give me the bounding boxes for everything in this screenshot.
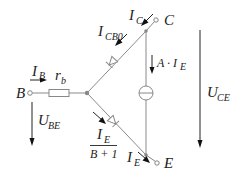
emitter-terminal (155, 161, 159, 165)
source-current-arrow (150, 55, 155, 74)
uce-label-sub: CE (217, 92, 230, 103)
base-terminal (28, 91, 33, 96)
resistor-rb (49, 90, 69, 97)
uce-arrow (198, 30, 203, 148)
collector-label: C (164, 12, 175, 28)
base-label: B (16, 85, 25, 101)
ie-label-main: I (126, 149, 133, 165)
fraction-numerator-main: I (96, 126, 103, 142)
ie-fraction-arrow (93, 112, 106, 124)
ube-label-sub: BE (48, 120, 60, 131)
ib-label-main: I (31, 63, 38, 79)
fraction-numerator-sub: E (103, 134, 110, 145)
rb-label-sub: b (61, 75, 66, 86)
circuit-diagram: B C E I B r b I C I CB0 A · I E U CE U B… (0, 0, 245, 175)
icb0-label-sub: CB0 (105, 31, 123, 42)
emitter-label: E (163, 155, 173, 171)
source-label-main: A · I (156, 56, 178, 70)
ie-label-sub: E (133, 157, 140, 168)
ic-arrow (141, 14, 153, 26)
collector-terminal (154, 18, 158, 22)
ube-arrow (30, 102, 35, 146)
ib-label-sub: B (39, 70, 45, 81)
ic-label-main: I (128, 7, 135, 23)
ic-label-sub: C (136, 15, 143, 26)
source-label-sub: E (179, 61, 186, 72)
icb0-label-main: I (97, 23, 104, 39)
fraction-denominator: B + 1 (90, 147, 117, 161)
